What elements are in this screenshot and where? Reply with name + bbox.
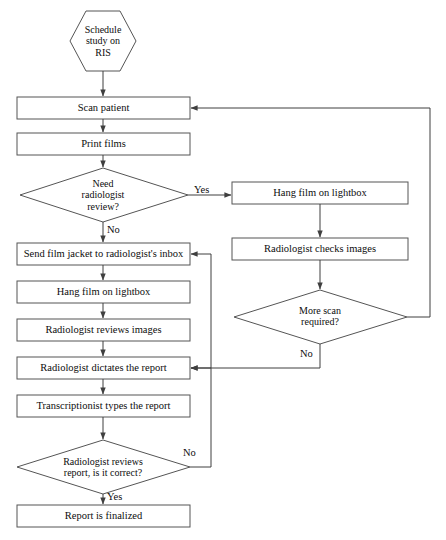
node-shape-hang-right [232, 182, 408, 204]
edge-correct-no-to-dictate [190, 368, 211, 467]
node-shape-finalized [17, 505, 190, 527]
node-shape-sendjacket [17, 243, 190, 265]
flowchart-graphics [0, 0, 446, 540]
node-shape-hang-left [17, 281, 190, 303]
node-shape-start [70, 11, 136, 71]
node-shape-checkimages [232, 238, 408, 260]
node-shape-morescan [234, 290, 407, 344]
node-shape-print [17, 133, 190, 155]
node-shape-needreview [20, 168, 188, 222]
node-shape-dictate [17, 357, 190, 379]
node-shape-correct [17, 440, 190, 494]
node-shape-reviewimages [17, 319, 190, 341]
flowchart-canvas: Schedule study on RIS Scan patient Print… [0, 0, 446, 540]
edge-morescan-no-to-dictate [191, 344, 320, 368]
node-shape-transcribe [17, 395, 190, 417]
edge-morescan-yes-to-scan [191, 108, 430, 317]
node-shape-scan [17, 97, 190, 119]
